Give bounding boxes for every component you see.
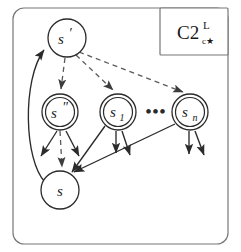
- node-s-label: s: [57, 183, 63, 199]
- node-s-prime[interactable]: s ′: [48, 19, 86, 57]
- node-s-prime-label: s: [58, 31, 64, 47]
- node-s-n[interactable]: s n: [172, 94, 208, 130]
- ellipsis-label: •••: [146, 102, 167, 121]
- node-s-double[interactable]: s ″: [42, 94, 78, 130]
- node-s-double-decoration: ″: [63, 100, 69, 115]
- stub-arrow-sn-right: [195, 131, 204, 155]
- edge-sprime-to-sn: [79, 52, 183, 92]
- edge-sprime-to-s1: [76, 55, 113, 90]
- node-s-n-label: s: [182, 104, 188, 120]
- node-s-1-subscript: 1: [120, 112, 125, 123]
- stub-arrow-sdouble-left: [41, 131, 57, 156]
- edge-sprime-to-sdouble: [61, 58, 65, 89]
- stub-arrow-s1-right: [122, 131, 130, 155]
- stub-arrow-sdouble-right: [66, 131, 79, 156]
- node-s-1[interactable]: s 1: [100, 94, 136, 130]
- node-s-prime-decoration: ′: [69, 26, 72, 41]
- node-s[interactable]: s: [41, 171, 79, 209]
- corner-label-subscript: c★: [202, 36, 214, 46]
- corner-label-base: C2: [177, 22, 199, 43]
- node-s-double-label: s: [51, 105, 57, 121]
- node-s-1-label: s: [110, 104, 116, 120]
- edge-sdouble-to-s: [60, 131, 62, 167]
- corner-label-superscript: L: [203, 19, 210, 31]
- diagram-figure: s ′ s ″ s 1 s n s •••: [0, 0, 241, 252]
- node-s-n-subscript: n: [193, 112, 198, 123]
